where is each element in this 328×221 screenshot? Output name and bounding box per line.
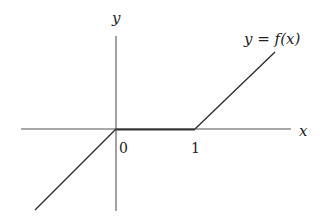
function-graph: y x 0 1 y = f(x) xyxy=(0,0,328,221)
x-axis-label: x xyxy=(299,122,308,140)
y-axis-label: y xyxy=(111,9,121,27)
curve-segment-negative xyxy=(35,129,116,210)
curve-segment-positive xyxy=(195,52,275,129)
curve-label: y = f(x) xyxy=(243,30,300,48)
one-tick-label: 1 xyxy=(191,140,200,156)
origin-tick-label: 0 xyxy=(119,140,128,156)
